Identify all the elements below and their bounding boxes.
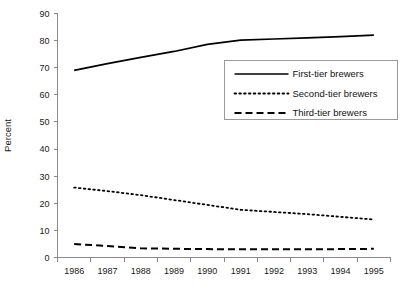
x-tick-label: 1989 xyxy=(164,266,184,276)
y-tick-label: 10 xyxy=(39,226,49,236)
x-tick-label: 1992 xyxy=(264,266,284,276)
y-axis-title: Percent xyxy=(2,119,13,152)
x-tick-label: 1994 xyxy=(331,266,351,276)
chart-canvas: 0102030405060708090198619871988198919901… xyxy=(0,0,408,297)
x-tick-label: 1987 xyxy=(97,266,117,276)
y-tick-label: 80 xyxy=(39,36,49,46)
x-tick-label: 1986 xyxy=(64,266,84,276)
y-tick-label: 90 xyxy=(39,9,49,19)
x-tick-label: 1995 xyxy=(364,266,384,276)
y-tick-label: 40 xyxy=(39,144,49,154)
x-tick-label: 1988 xyxy=(131,266,151,276)
legend-label-3: Third-tier brewers xyxy=(293,107,368,118)
line-chart: 0102030405060708090198619871988198919901… xyxy=(0,0,408,297)
y-tick-label: 0 xyxy=(44,253,49,263)
x-tick-label: 1990 xyxy=(197,266,217,276)
y-tick-label: 30 xyxy=(39,172,49,182)
y-tick-label: 50 xyxy=(39,117,49,127)
x-tick-label: 1991 xyxy=(231,266,251,276)
y-tick-label: 60 xyxy=(39,90,49,100)
series-line-3 xyxy=(74,244,374,249)
series-line-2 xyxy=(74,188,374,220)
y-tick-label: 20 xyxy=(39,199,49,209)
x-tick-label: 1993 xyxy=(297,266,317,276)
legend-label-2: Second-tier brewers xyxy=(293,88,378,99)
y-tick-label: 70 xyxy=(39,63,49,73)
legend-label-1: First-tier brewers xyxy=(293,68,365,79)
